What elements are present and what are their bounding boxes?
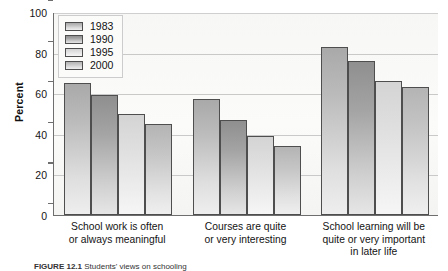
- legend-swatch-2000: [65, 61, 83, 70]
- bar-1983-group-3: [321, 47, 348, 215]
- legend-swatch-1983: [65, 22, 83, 31]
- legend-row-1983: 1983: [65, 20, 113, 33]
- legend-row-1990: 1990: [65, 33, 113, 46]
- figure-caption: FIGURE 12.1 Students' views on schooling: [34, 262, 187, 271]
- legend-label-1995: 1995: [90, 46, 113, 59]
- y-tick-mark: [48, 81, 53, 82]
- legend-row-2000: 2000: [65, 59, 113, 72]
- bar-1990-group-1: [91, 95, 118, 215]
- category-label-1-line-1: School work is often: [45, 221, 189, 234]
- bar-1983-group-2: [193, 99, 220, 215]
- y-tick-label-40: 40: [17, 129, 47, 141]
- chart-legend: 1983199019952000: [58, 15, 123, 78]
- category-label-2: Courses are quiteor very interesting: [173, 221, 317, 246]
- bar-2000-group-3: [402, 87, 429, 215]
- caption-text: Students' views on schooling: [84, 262, 186, 271]
- legend-label-1990: 1990: [90, 33, 113, 46]
- caption-lead: FIGURE 12.1: [34, 262, 82, 271]
- bar-1990-group-2: [220, 120, 247, 215]
- category-label-1: School work is oftenor always meaningful: [45, 221, 189, 246]
- category-label-3-line-2: quite or very important: [302, 234, 446, 247]
- bar-1995-group-3: [375, 81, 402, 215]
- legend-label-1983: 1983: [90, 20, 113, 33]
- y-tick-label-80: 80: [17, 48, 47, 60]
- y-tick-label-20: 20: [17, 169, 47, 181]
- y-tick-mark: [48, 122, 53, 123]
- legend-row-1995: 1995: [65, 46, 113, 59]
- x-axis-category-labels: School work is oftenor always meaningful…: [53, 221, 438, 265]
- y-tick-mark: [48, 41, 53, 42]
- bar-1990-group-3: [348, 61, 375, 215]
- y-tick-mark: [48, 203, 53, 204]
- bar-1995-group-1: [118, 114, 145, 216]
- category-label-3: School learning will bequite or very imp…: [302, 221, 446, 259]
- category-label-2-line-2: or very interesting: [173, 234, 317, 247]
- legend-label-2000: 2000: [90, 59, 113, 72]
- bar-2000-group-2: [274, 146, 301, 215]
- legend-swatch-1990: [65, 35, 83, 44]
- y-tick-mark: [48, 0, 53, 1]
- category-label-3-line-3: in later life: [302, 246, 446, 259]
- category-label-3-line-1: School learning will be: [302, 221, 446, 234]
- y-tick-label-60: 60: [17, 88, 47, 100]
- y-tick-label-100: 100: [17, 7, 47, 19]
- legend-swatch-1995: [65, 48, 83, 57]
- bar-1995-group-2: [247, 136, 274, 215]
- category-label-2-line-1: Courses are quite: [173, 221, 317, 234]
- bar-2000-group-1: [145, 124, 172, 215]
- category-label-1-line-2: or always meaningful: [45, 234, 189, 247]
- y-tick-mark: [48, 162, 53, 163]
- y-tick-label-0: 0: [17, 210, 47, 222]
- bar-1983-group-1: [64, 83, 91, 215]
